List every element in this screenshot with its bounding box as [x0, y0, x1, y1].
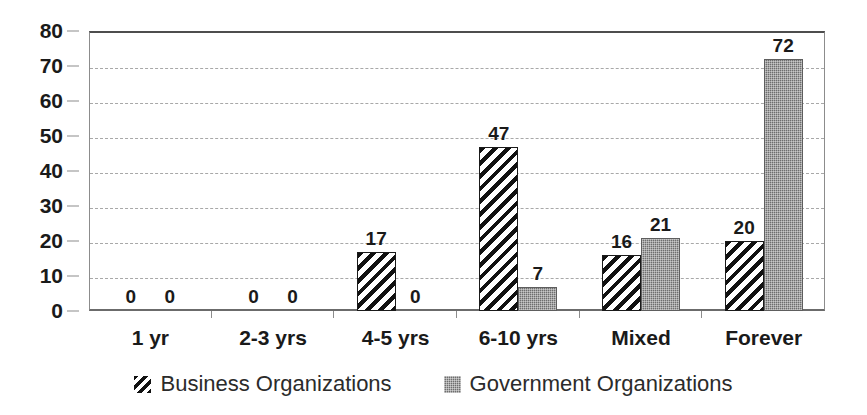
bar-pair: 2072 — [725, 31, 803, 311]
y-tick-label: 50 — [40, 124, 63, 148]
bar-slot: 17 — [357, 31, 396, 311]
bar-pair: 1621 — [602, 31, 680, 311]
bar-slot: 0 — [111, 31, 150, 311]
y-tick-mark — [67, 101, 79, 102]
x-tick-mark — [211, 311, 212, 318]
bar-government[interactable] — [764, 59, 803, 311]
chart-legend: Business OrganizationsGovernment Organiz… — [0, 371, 867, 397]
y-tick-mark — [67, 171, 79, 172]
x-tick-label: 2-3 yrs — [212, 326, 335, 360]
x-tick-mark — [579, 311, 580, 318]
y-tick-label: 10 — [40, 264, 63, 288]
bar-government[interactable] — [518, 287, 557, 312]
bar-group: 2072 — [702, 31, 825, 311]
bar-groups: 000017047716212072 — [89, 31, 825, 311]
x-axis: 1 yr2-3 yrs4-5 yrs6-10 yrsMixedForever — [89, 326, 825, 360]
hatch-swatch-icon — [134, 376, 151, 393]
bar-slot: 72 — [764, 31, 803, 311]
bar-business[interactable] — [725, 241, 764, 311]
y-tick-label: 20 — [40, 229, 63, 253]
bar-group: 00 — [212, 31, 335, 311]
bar-value-label: 0 — [165, 287, 176, 306]
legend-item[interactable]: Government Organizations — [444, 371, 733, 397]
bar-slot: 20 — [725, 31, 764, 311]
x-tick-label: 6-10 yrs — [457, 326, 580, 360]
y-tick-mark — [67, 206, 79, 207]
bar-chart: 80706050403020100 000017047716212072 1 y… — [0, 0, 867, 415]
bar-slot: 16 — [602, 31, 641, 311]
bar-value-label: 0 — [248, 287, 259, 306]
bar-value-label: 21 — [650, 215, 671, 234]
bar-pair: 00 — [111, 31, 189, 311]
legend-item[interactable]: Business Organizations — [134, 371, 391, 397]
bar-value-label: 20 — [734, 218, 755, 237]
y-tick-label: 30 — [40, 194, 63, 218]
legend-label: Business Organizations — [160, 371, 391, 397]
bar-value-label: 7 — [533, 264, 544, 283]
y-axis: 80706050403020100 — [0, 0, 89, 415]
legend-label: Government Organizations — [470, 371, 733, 397]
bar-value-label: 47 — [488, 124, 509, 143]
x-tick-mark — [701, 311, 702, 318]
bar-value-label: 0 — [410, 287, 421, 306]
bar-slot: 7 — [518, 31, 557, 311]
bar-slot: 0 — [396, 31, 435, 311]
bar-slot: 0 — [273, 31, 312, 311]
y-tick-label: 60 — [40, 89, 63, 113]
dotted-swatch-icon — [444, 376, 461, 393]
y-tick-mark — [67, 136, 79, 137]
bar-slot: 47 — [479, 31, 518, 311]
bar-pair: 477 — [479, 31, 557, 311]
x-tick-mark — [456, 311, 457, 318]
y-tick-mark — [67, 276, 79, 277]
y-tick-mark — [67, 241, 79, 242]
bar-business[interactable] — [602, 255, 641, 311]
x-tick-mark — [333, 311, 334, 318]
y-tick-mark — [67, 66, 79, 67]
bar-business[interactable] — [357, 252, 396, 312]
bar-pair: 170 — [357, 31, 435, 311]
y-tick-mark — [67, 311, 79, 312]
bar-business[interactable] — [479, 147, 518, 312]
bar-value-label: 72 — [773, 36, 794, 55]
bar-value-label: 0 — [287, 287, 298, 306]
x-tick-label: 4-5 yrs — [334, 326, 457, 360]
bar-value-label: 16 — [611, 232, 632, 251]
bar-government[interactable] — [641, 238, 680, 312]
bar-slot: 0 — [150, 31, 189, 311]
y-tick-mark — [67, 31, 79, 32]
x-tick-label: Mixed — [580, 326, 703, 360]
bar-value-label: 17 — [366, 229, 387, 248]
bar-group: 00 — [89, 31, 212, 311]
bar-group: 477 — [457, 31, 580, 311]
bar-pair: 00 — [234, 31, 312, 311]
bar-group: 1621 — [580, 31, 703, 311]
y-tick-label: 40 — [40, 159, 63, 183]
x-tick-label: Forever — [702, 326, 825, 360]
y-tick-label: 70 — [40, 54, 63, 78]
bar-group: 170 — [334, 31, 457, 311]
y-tick-label: 0 — [51, 299, 63, 323]
y-tick-label: 80 — [40, 19, 63, 43]
bar-slot: 0 — [234, 31, 273, 311]
bar-slot: 21 — [641, 31, 680, 311]
x-tick-label: 1 yr — [89, 326, 212, 360]
bar-value-label: 0 — [126, 287, 137, 306]
